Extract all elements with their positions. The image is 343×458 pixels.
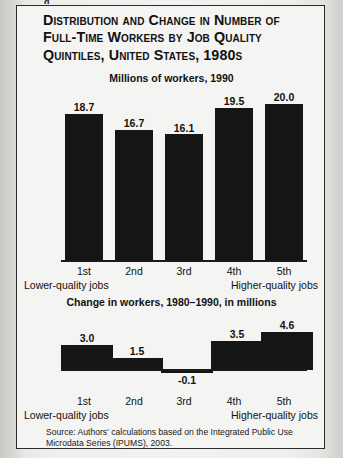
chart-change-in-workers: Change in workers, 1980–1990, in million… [17, 296, 326, 416]
chart1-baseline-axis [61, 260, 307, 262]
chart2-tick-3rd: 3rd [165, 395, 203, 407]
figure-title-line-2: Full-Time Workers by Job Quality [43, 29, 333, 46]
chart1-bar-value-3rd: 16.1 [159, 122, 209, 134]
figure-title-line-3: Quintiles, United States, 1980s [43, 47, 333, 64]
source-note-line-1: Source: Authors' calculations based on t… [46, 427, 314, 438]
chart2-bar-group-1st: 3.0 [61, 314, 113, 370]
chart1-tick-4th: 4th [215, 265, 253, 277]
chart1-bar-1st [65, 114, 103, 261]
chart1-bar-group-2nd: 16.7 [115, 92, 153, 261]
chart-millions-of-workers: Millions of workers, 1990 18.7 16.7 16.1 [17, 72, 326, 272]
chart1-bar-2nd [115, 130, 153, 261]
chart1-higher-quality-label: Higher-quality jobs [231, 279, 318, 291]
figure-title-line-1: Distribution and Change in Number of [43, 12, 333, 29]
chart2-plot-area: 3.0 1.5 -0.1 3.5 4.6 [65, 314, 303, 370]
chart2-bar-group-5th: 4.6 [261, 314, 313, 370]
chart2-category-ticks: 1st 2nd 3rd 4th 5th [65, 395, 303, 409]
chart2-tick-4th: 4th [215, 395, 253, 407]
figure-title: Distribution and Change in Number of Ful… [43, 12, 333, 64]
chart1-bar-group-3rd: 16.1 [165, 92, 203, 261]
chart2-zero-axis [61, 369, 307, 371]
chart1-tick-5th: 5th [265, 265, 303, 277]
chart1-tick-2nd: 2nd [115, 265, 153, 277]
chart1-tick-3rd: 3rd [165, 265, 203, 277]
chart2-tick-2nd: 2nd [115, 395, 153, 407]
chart2-lower-quality-label: Lower-quality jobs [24, 409, 109, 421]
chart2-bar-group-3rd: -0.1 [161, 314, 213, 370]
chart1-bar-value-5th: 20.0 [259, 91, 309, 103]
chart1-bar-3rd [165, 134, 203, 261]
chart1-plot-area: 18.7 16.7 16.1 19.5 20.0 [65, 92, 303, 261]
chart2-tick-5th: 5th [265, 395, 303, 407]
chart1-category-ticks: 1st 2nd 3rd 4th 5th [65, 265, 303, 279]
chart1-bar-5th [265, 104, 303, 261]
chart2-bar-value-3rd: -0.1 [153, 374, 221, 386]
cutoff-text-fragment: g [44, 0, 58, 4]
chart1-title: Millions of workers, 1990 [17, 72, 326, 84]
chart2-bar-5th [261, 332, 313, 370]
figure-page: g Distribution and Change in Number of F… [0, 0, 343, 458]
chart2-title: Change in workers, 1980–1990, in million… [17, 296, 326, 308]
chart2-bar-group-2nd: 1.5 [111, 314, 163, 370]
chart1-bar-value-4th: 19.5 [209, 95, 259, 107]
chart1-bar-value-2nd: 16.7 [109, 117, 159, 129]
chart1-bar-4th [215, 108, 253, 261]
chart1-bar-value-1st: 18.7 [59, 101, 109, 113]
chart1-bar-group-1st: 18.7 [65, 92, 103, 261]
chart1-lower-quality-label: Lower-quality jobs [24, 279, 109, 291]
chart1-tick-1st: 1st [65, 265, 103, 277]
source-note-line-2: Microdata Series (IPUMS), 2003. [46, 438, 314, 449]
chart1-bar-group-5th: 20.0 [265, 92, 303, 261]
chart2-tick-1st: 1st [65, 395, 103, 407]
chart1-bar-group-4th: 19.5 [215, 92, 253, 261]
chart2-bar-4th [211, 341, 263, 370]
chart2-higher-quality-label: Higher-quality jobs [231, 409, 318, 421]
source-note: Source: Authors' calculations based on t… [46, 427, 314, 450]
chart2-bar-value-5th: 4.6 [253, 319, 321, 331]
figure-frame: Distribution and Change in Number of Ful… [16, 5, 325, 449]
